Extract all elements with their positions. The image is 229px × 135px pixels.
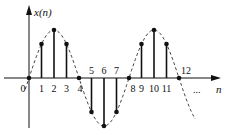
- stem-marker: [89, 110, 94, 115]
- stem-4: [77, 76, 82, 81]
- stem-marker: [52, 28, 57, 33]
- tick-label-9: 9: [139, 83, 144, 94]
- stem-0: [27, 76, 32, 81]
- tick-label-3: 3: [64, 83, 69, 94]
- stem-2: [52, 28, 57, 78]
- stem-marker: [152, 28, 157, 33]
- tick-label-4: 4: [78, 83, 83, 94]
- tick-label-5: 5: [89, 65, 94, 76]
- continuation-ellipsis: ...: [193, 84, 201, 95]
- x-axis-label: n: [216, 83, 222, 95]
- y-axis-arrow-icon: [26, 5, 32, 15]
- stem-marker: [77, 76, 82, 81]
- stem-marker: [114, 110, 119, 115]
- stem-marker: [127, 76, 132, 81]
- y-axis-label: x(n): [33, 6, 52, 19]
- stem-10: [152, 28, 157, 78]
- stem-marker: [102, 124, 107, 129]
- tick-label-7: 7: [114, 65, 119, 76]
- tick-label-2: 2: [52, 83, 57, 94]
- stem-marker: [164, 42, 169, 47]
- stem-marker: [139, 42, 144, 47]
- stem-12: [177, 76, 182, 81]
- stem-7: [114, 78, 119, 114]
- stem-marker: [64, 42, 69, 47]
- tick-label-12: 12: [181, 65, 191, 76]
- stem-marker: [27, 76, 32, 81]
- tick-label-11: 11: [162, 83, 172, 94]
- tick-label-1: 1: [39, 83, 44, 94]
- x-axis-arrow-icon: [211, 75, 221, 81]
- stem-marker: [177, 76, 182, 81]
- tick-label-6: 6: [102, 65, 107, 76]
- tick-label-8: 8: [131, 83, 136, 94]
- stem-marker: [39, 42, 44, 47]
- stem-plot: x(n) n ... 0123456789101112: [0, 0, 229, 135]
- stem-9: [139, 42, 144, 78]
- tick-labels: 0123456789101112: [21, 65, 192, 94]
- stem-8: [127, 76, 132, 81]
- tick-label-10: 10: [149, 83, 159, 94]
- tick-label-0: 0: [21, 83, 26, 94]
- stem-6: [102, 78, 107, 128]
